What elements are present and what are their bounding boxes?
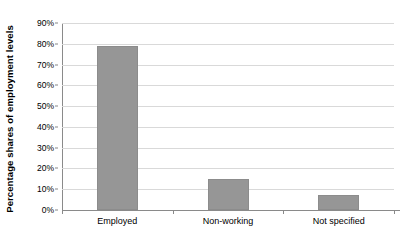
y-axis-tick-mark — [55, 210, 58, 211]
y-axis-tick-mark — [55, 147, 58, 148]
x-axis-tick-mark — [173, 210, 174, 214]
y-axis-tick-mark — [55, 85, 58, 86]
y-axis-tick-label: 20% — [37, 163, 54, 173]
x-axis-tick-label: Not specified — [313, 216, 365, 226]
bar-employed — [97, 46, 138, 210]
y-axis-tick-mark — [55, 23, 58, 24]
y-axis-tick-mark — [55, 126, 58, 127]
x-axis-tick-label: Non-working — [203, 216, 254, 226]
y-axis-tick-mark — [55, 64, 58, 65]
y-axis-title: Percentage shares of employment levels — [0, 0, 18, 238]
y-axis-tick-mark — [55, 106, 58, 107]
bars-layer — [62, 23, 394, 210]
y-axis-tick-mark — [55, 168, 58, 169]
bar-not-specified — [318, 195, 359, 210]
x-axis-tick-mark — [62, 210, 63, 214]
y-axis-tick-label: 50% — [37, 101, 54, 111]
y-axis-tick-label: 10% — [37, 184, 54, 194]
y-axis-tick-mark — [55, 43, 58, 44]
y-axis-tick-label: 0% — [42, 205, 54, 215]
y-axis-tick-label: 30% — [37, 143, 54, 153]
y-axis-tick-label: 90% — [37, 18, 54, 28]
y-axis-tick-label: 60% — [37, 80, 54, 90]
x-axis-tick-mark — [283, 210, 284, 214]
x-axis-tick-labels: EmployedNon-workingNot specified — [62, 210, 400, 238]
y-axis-tick-mark — [55, 189, 58, 190]
x-axis-tick-label: Employed — [97, 216, 137, 226]
y-axis-tick-labels: 0%10%20%30%40%50%60%70%80%90% — [22, 0, 58, 238]
bar-chart: Percentage shares of employment levels 0… — [0, 0, 401, 238]
y-axis-tick-label: 70% — [37, 60, 54, 70]
bar-non-working — [208, 179, 249, 210]
x-axis-tick-mark — [394, 210, 395, 214]
y-axis-tick-label: 80% — [37, 39, 54, 49]
plot-area — [62, 23, 394, 210]
y-axis-tick-label: 40% — [37, 122, 54, 132]
